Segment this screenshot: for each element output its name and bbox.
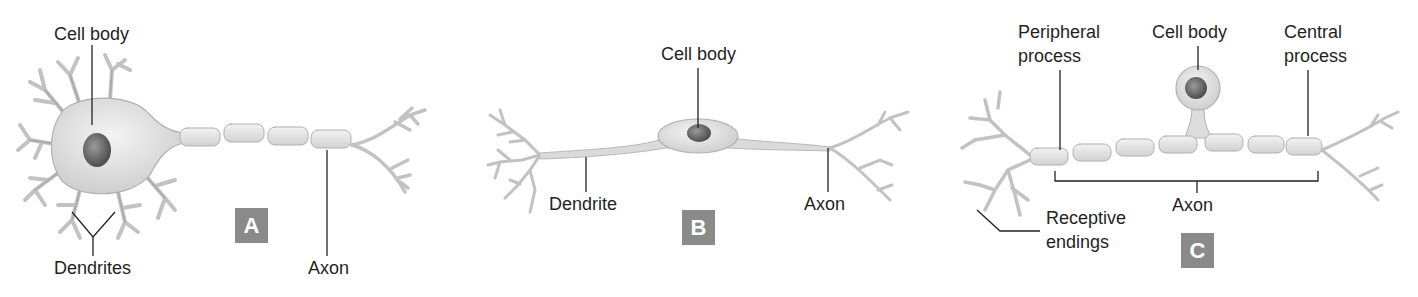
receptive-endings-c bbox=[962, 92, 1030, 215]
label-peripheral-process-line1: Peripheral bbox=[1018, 21, 1100, 43]
dendrite-tree-b bbox=[488, 110, 540, 212]
panel-badge-c: C bbox=[1181, 233, 1214, 268]
label-central-process-line1: Central bbox=[1284, 21, 1342, 43]
label-dendrites-a: Dendrites bbox=[54, 257, 131, 279]
cell-body-stalk-c bbox=[1185, 108, 1212, 138]
panel-badge-b: B bbox=[682, 210, 715, 245]
label-cell-body-b: Cell body bbox=[661, 43, 736, 65]
nucleus-c bbox=[1185, 77, 1207, 99]
label-central-process-line2: process bbox=[1284, 45, 1347, 67]
label-axon-b: Axon bbox=[804, 193, 845, 215]
axon-terminals-a bbox=[352, 108, 425, 192]
label-axon-a: Axon bbox=[308, 257, 349, 279]
label-peripheral-process-line2: process bbox=[1018, 45, 1081, 67]
label-receptive-endings-line1: Receptive bbox=[1046, 207, 1126, 229]
axon-terminals-c bbox=[1322, 112, 1398, 200]
nucleus-a bbox=[83, 133, 111, 167]
panel-c-neuron bbox=[962, 66, 1398, 215]
panel-badge-a: A bbox=[235, 208, 268, 243]
nucleus-b bbox=[687, 124, 711, 142]
label-axon-c: Axon bbox=[1172, 194, 1213, 216]
axon-segments-a bbox=[180, 124, 351, 148]
label-receptive-endings-line2: endings bbox=[1046, 231, 1109, 253]
panel-a-neuron bbox=[18, 55, 425, 238]
axon-terminals-b bbox=[830, 112, 908, 200]
cell-body-a bbox=[51, 98, 185, 194]
axon-segments-c bbox=[1030, 134, 1322, 165]
label-dendrite-b: Dendrite bbox=[549, 193, 617, 215]
label-cell-body-c: Cell body bbox=[1152, 21, 1227, 43]
label-cell-body-a: Cell body bbox=[54, 23, 129, 45]
